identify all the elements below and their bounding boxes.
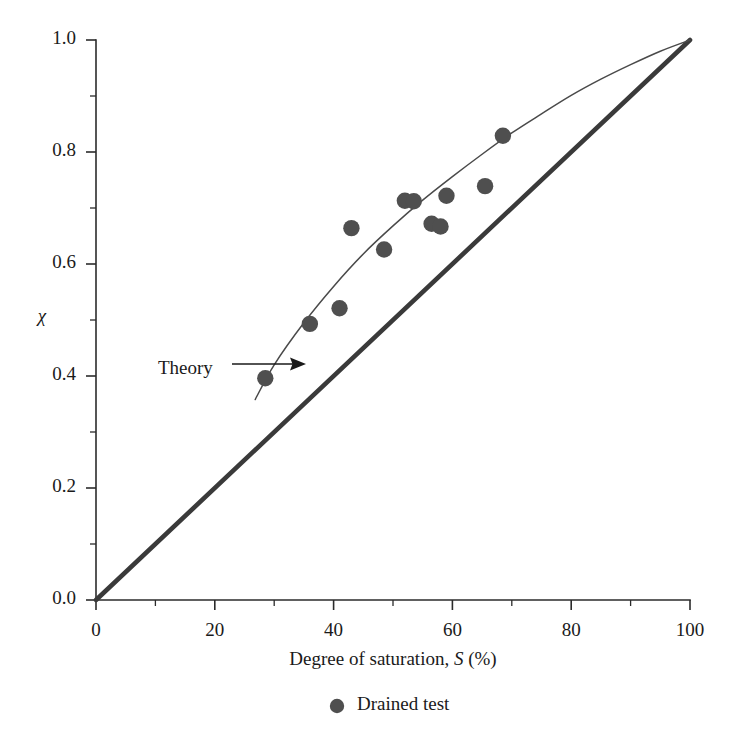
- data-point-drained-test: [438, 187, 454, 203]
- y-tick-label: 0.8: [52, 139, 76, 160]
- x-axis-title-suffix: (%): [463, 648, 496, 670]
- x-axis-title-symbol: S: [454, 648, 464, 669]
- data-point-drained-test: [406, 193, 422, 209]
- y-tick-label: 0.6: [52, 251, 76, 272]
- data-point-drained-test: [477, 178, 493, 194]
- theory-curve-line: [255, 40, 690, 400]
- drained-test-datapoints-group: [257, 128, 511, 387]
- data-point-drained-test: [331, 300, 347, 316]
- x-tick-label: 80: [562, 619, 581, 640]
- x-axis-title: Degree of saturation, S (%): [289, 648, 496, 670]
- data-point-drained-test: [302, 316, 318, 332]
- y-tick-label: 0.0: [52, 587, 76, 608]
- scatter-plot-canvas: 020406080100 0.00.20.40.60.81.0 Theory χ…: [0, 0, 739, 732]
- legend: Drained test: [330, 693, 450, 714]
- data-point-drained-test: [343, 220, 359, 236]
- y-tick-label: 0.2: [52, 475, 76, 496]
- data-point-drained-test: [257, 370, 273, 386]
- theory-annotation-group: Theory: [158, 357, 306, 378]
- chi-equals-s-reference-line: [96, 40, 690, 600]
- theory-annotation-label: Theory: [158, 357, 213, 378]
- legend-label-drained-test: Drained test: [357, 693, 450, 714]
- y-tick-label: 0.4: [52, 363, 76, 384]
- legend-marker-drained-test: [330, 699, 344, 713]
- data-point-drained-test: [495, 128, 511, 144]
- x-tick-labels-group: 020406080100: [91, 619, 704, 640]
- y-tick-label: 1.0: [52, 27, 76, 48]
- x-axis-title-prefix: Degree of saturation,: [289, 648, 454, 669]
- data-point-drained-test: [432, 218, 448, 234]
- y-tick-labels-group: 0.00.20.40.60.81.0: [52, 27, 76, 608]
- chart-figure: 020406080100 0.00.20.40.60.81.0 Theory χ…: [0, 0, 739, 732]
- data-point-drained-test: [376, 241, 392, 257]
- x-tick-label: 40: [324, 619, 343, 640]
- x-tick-label: 60: [443, 619, 462, 640]
- x-tick-label: 100: [676, 619, 705, 640]
- y-axis-title: χ: [36, 305, 47, 326]
- x-tick-label: 20: [205, 619, 224, 640]
- x-tick-label: 0: [91, 619, 101, 640]
